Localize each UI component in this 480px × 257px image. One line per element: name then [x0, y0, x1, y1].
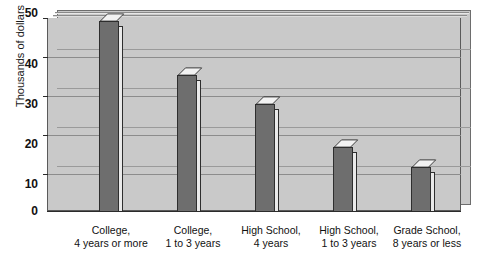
y-tickmark-10 — [43, 174, 48, 175]
x-axis-label-2-line1: College, — [174, 224, 213, 236]
x-axis-label-1-line1: College, — [92, 224, 131, 236]
y-axis-tick-labels: 50 40 30 20 10 0 — [12, 0, 38, 257]
y-tick-label-50: 50 — [12, 7, 38, 19]
bar-top-face-3 — [254, 96, 282, 105]
y-tick-label-20: 20 — [12, 138, 38, 150]
bar-4 — [333, 147, 353, 212]
bar-5 — [411, 167, 431, 212]
chart-figure: Thousands of dollars 50 40 30 20 10 0 — [0, 0, 480, 257]
y-tickmark-20 — [43, 135, 48, 136]
x-axis-label-3-line1: High School, — [241, 224, 301, 236]
bar-top-face-5 — [410, 159, 438, 168]
y-tickmark-40 — [43, 57, 48, 58]
y-tick-label-30: 30 — [12, 98, 38, 110]
bar-3 — [255, 104, 275, 212]
x-axis-label-4-line1: High School, — [319, 224, 379, 236]
y-tick-label-10: 10 — [12, 178, 38, 190]
bar-top-face-1 — [98, 13, 126, 22]
bar-top-face-2 — [176, 67, 204, 76]
y-tick-label-40: 40 — [12, 58, 38, 70]
x-axis-label-5: Grade School, 8 years or less — [379, 224, 475, 249]
bar-2 — [177, 75, 197, 212]
y-tickmark-50 — [43, 18, 48, 19]
plot-area — [47, 10, 471, 213]
y-tickmark-30 — [43, 96, 48, 97]
bar-1 — [99, 21, 119, 212]
x-axis-label-5-line1: Grade School, — [393, 224, 460, 236]
x-axis-baseline — [47, 211, 461, 212]
x-axis-label-5-line2: 8 years or less — [379, 237, 475, 250]
y-tick-label-0: 0 — [12, 205, 38, 217]
bar-top-face-4 — [332, 139, 360, 148]
